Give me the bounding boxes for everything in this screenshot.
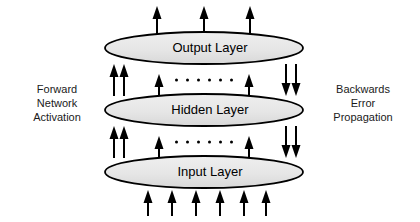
ellipsis-dot <box>175 141 178 144</box>
ellipsis-dot <box>230 79 233 82</box>
hidden-to-input-right-1-arrow-down <box>282 126 291 158</box>
ellipsis-dot <box>186 79 189 82</box>
backwards-error-propagation-label: Backwards Error Propagation <box>308 82 418 124</box>
layer-ellipses <box>105 32 303 188</box>
ellipsis-dot <box>208 141 211 144</box>
forward-network-activation-label: Forward Network Activation <box>2 82 112 124</box>
output-arrows-1-arrow-up <box>153 6 162 34</box>
ellipsis-dot <box>219 141 222 144</box>
neural-network-diagram: Output Layer Hidden Layer Input Layer Fo… <box>0 0 420 222</box>
ellipsis-dot <box>175 79 178 82</box>
output-to-hidden-right-2-arrow-down <box>292 64 301 96</box>
ellipsis-dot <box>197 141 200 144</box>
hidden-to-output-center-2-arrow-up <box>245 74 254 96</box>
input-arrows-5-arrow-up <box>240 190 249 216</box>
input-to-hidden-center-2-arrow-up <box>245 136 254 158</box>
input-arrows-2-arrow-up <box>168 190 177 216</box>
ellipsis-dot <box>230 141 233 144</box>
output-arrows-2-arrow-up <box>200 6 209 34</box>
ellipsis-dot <box>219 79 222 82</box>
input-to-hidden-center-1-arrow-up <box>155 136 164 158</box>
input-arrows-6-arrow-up <box>262 190 271 216</box>
output-layer-ellipse <box>105 32 303 64</box>
ellipsis-dot <box>208 79 211 82</box>
hidden-to-input-right-2-arrow-down <box>292 126 301 158</box>
ellipsis-dot <box>186 141 189 144</box>
input-arrows-1-arrow-up <box>144 190 153 216</box>
hidden-layer-ellipse <box>105 94 303 126</box>
input-to-hidden-left-1-arrow-up <box>110 126 119 158</box>
input-to-hidden-left-2-arrow-up <box>120 126 129 158</box>
input-layer-ellipse <box>105 156 303 188</box>
ellipsis-dot <box>197 79 200 82</box>
input-arrows-3-arrow-up <box>192 190 201 216</box>
hidden-to-output-left-2-arrow-up <box>120 64 129 96</box>
hidden-to-output-center-1-arrow-up <box>155 74 164 96</box>
output-arrows-3-arrow-up <box>246 6 255 34</box>
output-to-hidden-right-1-arrow-down <box>282 64 291 96</box>
input-arrows-4-arrow-up <box>216 190 225 216</box>
